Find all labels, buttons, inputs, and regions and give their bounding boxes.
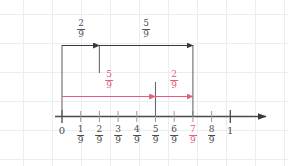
tick-label-1-9: 1 9 <box>77 125 85 146</box>
tick-label-2-9-numerator: 2 <box>96 125 104 134</box>
tick-label-7-9-numerator: 7 <box>189 125 197 134</box>
tick-label-0: 0 <box>59 126 65 136</box>
red-jump-label-2: 2 9 <box>170 70 178 90</box>
tick-label-8-9: 8 9 <box>208 125 216 146</box>
tick-label-2-9-denominator: 9 <box>96 136 104 145</box>
tick-label-5-9-numerator: 5 <box>152 125 160 134</box>
tick-label-7-9: 7 9 <box>189 125 197 146</box>
red-jump-label-1-denominator: 9 <box>105 81 113 90</box>
tick-label-8-9-numerator: 8 <box>208 125 216 134</box>
tick-label-6-9-numerator: 6 <box>170 125 178 134</box>
tick-label-4-9-numerator: 4 <box>133 125 141 134</box>
red-jump-label-1-numerator: 5 <box>105 70 113 79</box>
tick-label-3-9-numerator: 3 <box>114 125 122 134</box>
top-jump-label-2: 5 9 <box>142 19 150 39</box>
tick-label-4-9-denominator: 9 <box>133 136 141 145</box>
tick-label-8-9-denominator: 9 <box>208 136 216 145</box>
top-jump-label-1: 2 9 <box>77 19 85 39</box>
number-line-figure: 2 9 5 9 5 9 2 9 0 1 9 <box>0 0 288 166</box>
tick-label-1: 1 <box>227 126 233 136</box>
tick-label-2-9: 2 9 <box>96 125 104 146</box>
tick-label-6-9: 6 9 <box>170 125 178 146</box>
tick-label-4-9: 4 9 <box>133 125 141 146</box>
top-jump-label-1-numerator: 2 <box>77 19 85 28</box>
red-jump-label-2-denominator: 9 <box>170 81 178 90</box>
top-jump-label-2-denominator: 9 <box>142 30 150 39</box>
top-jump-label-2-numerator: 5 <box>142 19 150 28</box>
red-jump-label-1: 5 9 <box>105 70 113 90</box>
tick-label-3-9: 3 9 <box>114 125 122 146</box>
tick-label-1-9-denominator: 9 <box>77 136 85 145</box>
tick-label-5-9-denominator: 9 <box>152 136 160 145</box>
top-jump-label-1-denominator: 9 <box>77 30 85 39</box>
red-jump-label-2-numerator: 2 <box>170 70 178 79</box>
tick-label-5-9: 5 9 <box>152 125 160 146</box>
tick-label-6-9-denominator: 9 <box>170 136 178 145</box>
tick-label-3-9-denominator: 9 <box>114 136 122 145</box>
number-line-axis <box>55 110 266 123</box>
tick-label-1-9-numerator: 1 <box>77 125 85 134</box>
tick-label-7-9-denominator: 9 <box>189 136 197 145</box>
